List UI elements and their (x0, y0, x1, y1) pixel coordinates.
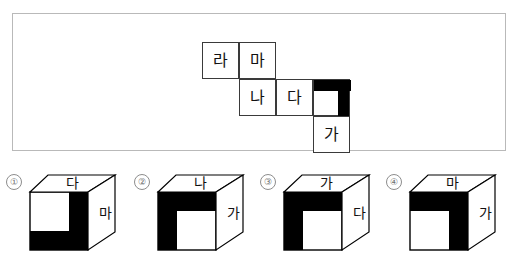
option-1[interactable]: ① 다 마 (4, 168, 129, 260)
worksheet-page: 라 마 나 다 가 ① (0, 0, 522, 265)
option-3-right-label: 다 (353, 206, 366, 220)
net-cell-na: 나 (239, 79, 276, 116)
net-cell-ra-label: 라 (213, 53, 228, 69)
net-cell-ga: 가 (313, 116, 350, 153)
option-3-top-label: 가 (320, 176, 333, 190)
option-3[interactable]: ③ 가 다 (258, 168, 383, 260)
option-1-right-label: 마 (99, 206, 112, 220)
option-2-number: ② (134, 174, 150, 190)
option-1-cube: 다 마 (26, 170, 118, 258)
option-2-top-label: 나 (194, 176, 207, 190)
net-cell-ra: 라 (202, 42, 239, 79)
net-cell-ma-label: 마 (250, 53, 265, 69)
option-1-top-label: 다 (66, 176, 79, 190)
net-cell-pattern (313, 79, 350, 116)
option-4[interactable]: ④ 마 가 (384, 168, 509, 260)
option-4-top-label: 마 (446, 176, 459, 190)
black-band-right-icon (338, 80, 349, 117)
net-cell-da: 다 (276, 79, 313, 116)
net-panel: 라 마 나 다 가 (12, 13, 506, 151)
net-cell-na-label: 나 (250, 90, 265, 106)
option-4-cube: 마 가 (406, 170, 498, 258)
option-3-cube: 가 다 (280, 170, 372, 258)
net-cell-da-label: 다 (287, 90, 302, 106)
net-cell-ga-label: 가 (324, 127, 339, 143)
option-4-number: ④ (386, 174, 402, 190)
option-1-number: ① (6, 174, 22, 190)
option-2-cube: 나 가 (154, 170, 246, 258)
option-4-right-label: 가 (479, 206, 492, 220)
net-cell-ma: 마 (239, 42, 276, 79)
option-2[interactable]: ② 나 가 (132, 168, 257, 260)
option-3-number: ③ (260, 174, 276, 190)
option-2-right-label: 가 (227, 206, 240, 220)
